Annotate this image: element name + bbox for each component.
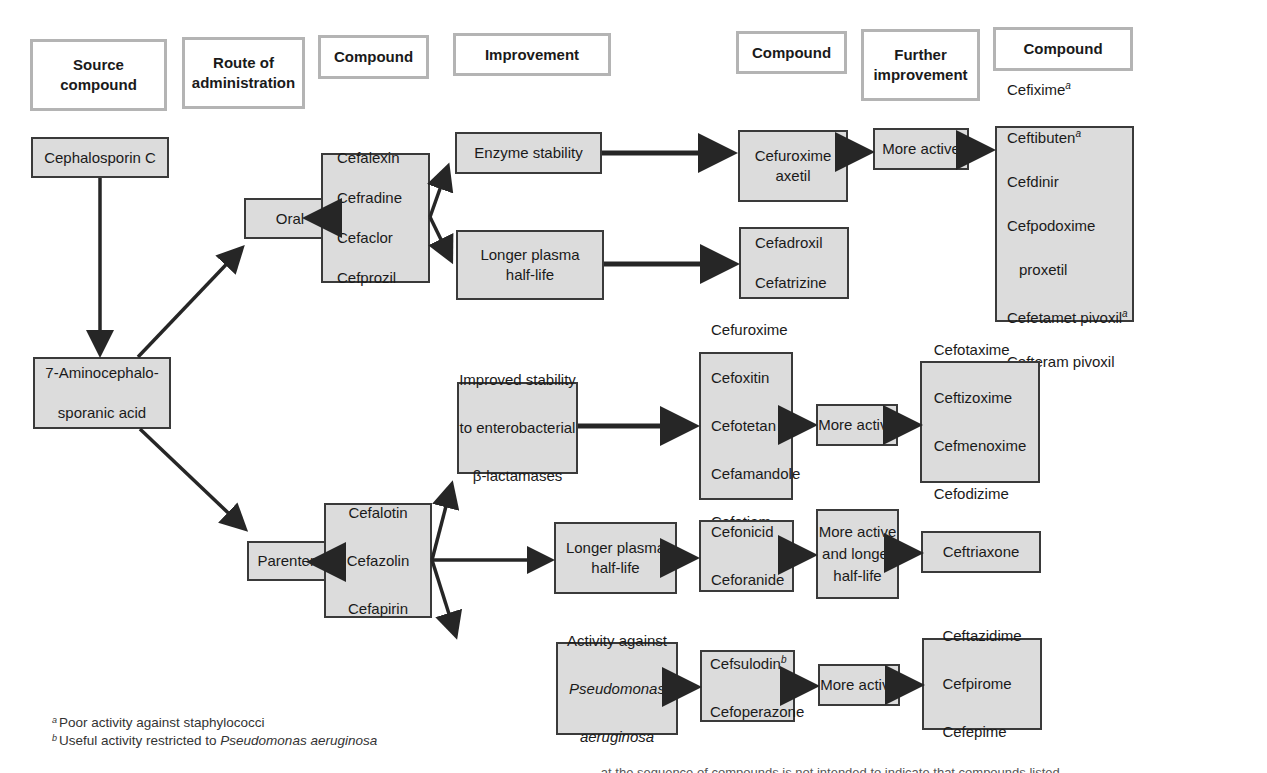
node-cefsulodin-cefoperazone: Cefsulodinb Cefoperazone [700,650,795,722]
compound-item: Cefazolin [347,549,410,573]
aca-line-2: sporanic acid [45,403,158,423]
compound-item: Cefpodoxime [1007,215,1128,237]
compound-item: Cefodizime [934,482,1027,506]
node-parenteral-compounds: Cefalotin Cefazolin Cefapirin [324,503,432,618]
node-more-active-longer-half-life: More active and longer half-life [816,509,899,599]
compound-item: Cefaclor [337,228,402,248]
node-oral-compounds: Cefalexin Cefradine Cefaclor Cefprozil [321,153,430,283]
header-further-improvement: Further improvement [861,29,980,101]
node-oral-longer-half-life: Longer plasma half-life [456,230,604,300]
node-improved-stability-beta-lactamases: Improved stability to enterobacterial β-… [457,382,578,474]
compound-item: Ceftizoxime [934,386,1027,410]
compound-item: Cefmenoxime [934,434,1027,458]
node-oral-more-active: More active [873,128,969,170]
arrow-to-enzyme-stability [430,169,447,217]
node-cefuroxime-axetil: Cefuroxime axetil [738,130,848,202]
arrow-aca-to-oral [138,250,240,357]
compound-item: Ceforanide [711,568,784,592]
footnote-b-marker: b [52,733,57,743]
compound-item: Cefotetan [711,414,800,438]
node-cefonicid-ceforanide: Cefonicid Ceforanide [699,520,794,592]
node-cefadroxil-cefatrizine: Cefadroxil Cefatrizine [739,227,849,299]
compound-item: Cefonicid [711,520,784,544]
node-oral-final-compounds: Cefiximea Ceftibutena Cefdinir Cefpodoxi… [995,126,1134,322]
compound-item: Cefradine [337,188,402,208]
compound-item: Cefsulodinb [710,648,804,676]
node-7-aminocephalosporanic-acid: 7-Aminocephalo- sporanic acid [33,357,171,429]
node-branch1-more-active: More active [816,404,898,446]
node-enzyme-stability: Enzyme stability [455,132,602,174]
arrow-to-oral-longer [430,217,450,258]
compound-item: Ceftibutena [1007,123,1128,149]
compound-item: Cefuroxime [711,318,800,342]
footnote-marker-a: a [1122,308,1128,319]
compound-item: Cefiximea [1007,75,1128,101]
compound-item: Cefadroxil [755,233,827,253]
compound-item: Cefatrizine [755,273,827,293]
compound-item: Cefapirin [347,597,410,621]
compound-item: Cefalexin [337,148,402,168]
compound-item: Cefpirome [942,672,1021,696]
compound-item: Cefamandole [711,462,800,486]
text-line: to enterobacterial [459,416,576,440]
footnote-b: bUseful activity restricted to Pseudomon… [52,733,377,748]
footnote-a: aPoor activity against staphylococci [52,715,265,730]
node-branch3-more-active: More active [818,664,900,706]
footnote-marker-b: b [781,654,787,665]
node-branch1-final: Cefotaxime Ceftizoxime Cefmenoxime Cefod… [920,361,1040,483]
node-branch1-compounds: Cefuroxime Cefoxitin Cefotetan Cefamando… [699,352,793,500]
compound-item: Cefepime [942,720,1021,744]
arrow-aca-to-parenteral [140,429,243,527]
node-cephalosporin-c: Cephalosporin C [31,137,169,178]
header-improvement: Improvement [453,33,611,76]
arrow-to-branch3 [432,560,455,633]
footnote-marker-a: a [1065,80,1071,91]
compound-item: Cefotaxime [934,338,1027,362]
compound-item-continuation: proxetil [1007,259,1128,281]
header-compound-1: Compound [318,35,429,79]
node-parenteral-longer-half-life: Longer plasma half-life [554,522,677,594]
text-line: Pseudomonas [567,677,667,701]
compound-item: Cefdinir [1007,171,1128,193]
header-route-of-administration: Route of administration [182,37,305,109]
footnote-marker-a: a [1075,128,1081,139]
header-source-compound: Source compound [30,39,167,111]
compound-item: Cefalotin [347,501,410,525]
compound-item: Cefoxitin [711,366,800,390]
compound-item: Cefoperazone [710,700,804,724]
compound-item: Ceftazidime [942,624,1021,648]
text-line: aeruginosa [567,725,667,749]
text-line: Activity against [567,629,667,653]
node-branch3-final: Ceftazidime Cefpirome Cefepime [922,638,1042,730]
caption-cut-off: ...at the sequence of compounds is not i… [590,762,1060,773]
compound-item: Cefprozil [337,268,402,288]
header-compound-2: Compound [736,31,847,74]
node-activity-pseudomonas: Activity against Pseudomonas aeruginosa [556,642,678,735]
node-ceftriaxone: Ceftriaxone [921,531,1041,573]
aca-line-1: 7-Aminocephalo- [45,363,158,383]
text-line: β-lactamases [459,464,576,488]
arrow-to-branch1 [432,487,451,560]
text-line: Improved stability [459,368,576,392]
footnote-a-marker: a [52,715,57,725]
